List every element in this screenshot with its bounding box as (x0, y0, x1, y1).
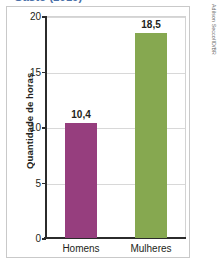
x-axis-tick-label: Mulheres (130, 243, 171, 254)
y-axis-tick (42, 72, 46, 74)
y-axis-tick-label: 10 (30, 122, 41, 133)
y-axis-tick-label: 5 (35, 177, 41, 188)
gridline (47, 17, 185, 18)
chart-title-clipped: Gasto (2019) (14, 0, 134, 3)
y-axis-tick (42, 127, 46, 129)
y-axis-tick-label: 0 (35, 233, 41, 244)
x-axis-tick-label: Homens (62, 243, 99, 254)
bar-chart-figure: Gasto (2019) Adilson Secco/ID/BR Quantid… (0, 0, 218, 267)
bar: 18,5 (135, 33, 167, 238)
y-axis-tick (42, 16, 46, 18)
y-axis-tick-label: 15 (30, 66, 41, 77)
bar: 10,4 (65, 123, 97, 238)
bar-value-label: 18,5 (141, 19, 160, 30)
y-axis-tick (42, 183, 46, 185)
bar-value-label: 10,4 (71, 109, 90, 120)
y-axis-tick (42, 238, 46, 240)
y-axis-tick-label: 20 (30, 11, 41, 22)
image-credit: Adilson Secco/ID/BR (207, 4, 217, 94)
